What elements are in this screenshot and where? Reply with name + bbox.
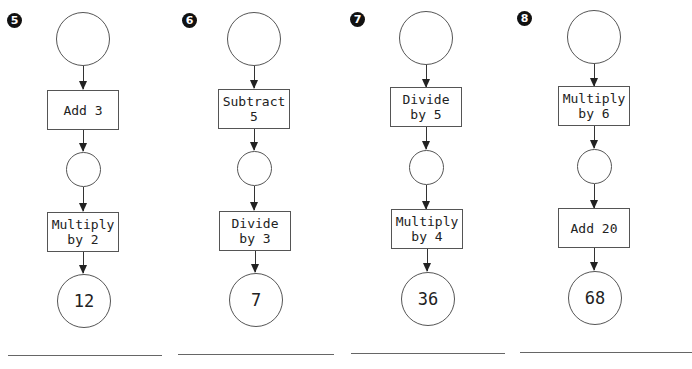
middle-value-circle[interactable] [66, 152, 101, 187]
arrow-down-icon [427, 249, 428, 271]
arrow-down-icon [426, 127, 427, 149]
operation-box-step2: Multiply by 4 [391, 209, 463, 249]
operation-box-step2: Multiply by 2 [47, 212, 119, 252]
answer-line[interactable] [178, 354, 334, 355]
arrow-down-icon [254, 186, 255, 210]
operation-box-step2: Add 20 [558, 208, 630, 248]
arrow-down-icon [83, 252, 84, 273]
start-value-circle[interactable] [227, 12, 281, 66]
arrow-down-icon [594, 64, 595, 86]
answer-line[interactable] [351, 353, 505, 354]
problem-number-badge: 5 [7, 13, 22, 28]
operation-box-step1: Divide by 5 [390, 87, 462, 127]
middle-value-circle[interactable] [409, 150, 444, 185]
start-value-circle[interactable] [567, 10, 621, 64]
arrow-down-icon [83, 130, 84, 151]
problem-number-badge: 8 [517, 11, 532, 26]
arrow-down-icon [254, 66, 255, 88]
problem-number-badge: 6 [182, 13, 197, 28]
arrow-down-icon [83, 187, 84, 211]
operation-box-step1: Add 3 [47, 90, 119, 130]
arrow-down-icon [254, 129, 255, 150]
arrow-down-icon [594, 184, 595, 208]
operation-box-step1: Multiply by 6 [558, 86, 630, 126]
flowchart-problem-5: 5 Add 3 Multiply by 2 12 [0, 0, 170, 369]
start-value-circle[interactable] [56, 12, 110, 66]
arrow-down-icon [594, 126, 595, 148]
operation-box-step2: Divide by 3 [219, 211, 291, 251]
problem-number-badge: 7 [350, 12, 365, 27]
arrow-down-icon [255, 251, 256, 272]
arrow-down-icon [426, 185, 427, 209]
operation-box-step1: Subtract 5 [218, 89, 290, 129]
arrow-down-icon [426, 65, 427, 87]
middle-value-circle[interactable] [237, 151, 272, 186]
answer-line[interactable] [8, 355, 162, 356]
answer-line[interactable] [520, 352, 692, 353]
middle-value-circle[interactable] [577, 149, 612, 184]
end-value-circle: 68 [568, 271, 622, 325]
end-value-circle: 36 [401, 272, 455, 326]
arrow-down-icon [594, 248, 595, 270]
arrow-down-icon [83, 66, 84, 89]
end-value-circle: 7 [229, 273, 283, 327]
end-value-circle: 12 [57, 274, 111, 328]
start-value-circle[interactable] [399, 11, 453, 65]
